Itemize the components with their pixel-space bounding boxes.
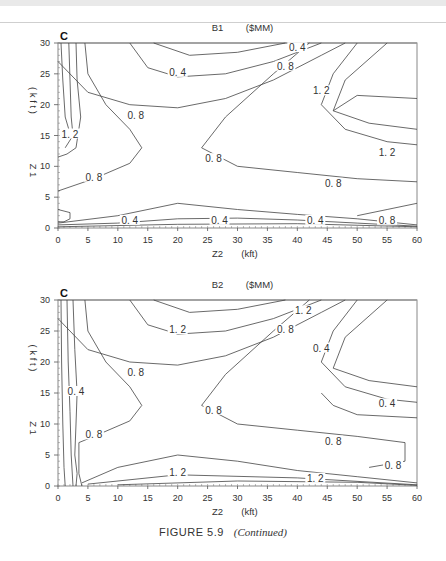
chart-title: B2 [212,279,224,290]
contour-line [333,300,417,387]
chart-units: ($MM) [246,22,273,33]
y-tick-label: 20 [40,357,50,367]
y-tick-label: 15 [40,131,50,141]
x-tick-label: 50 [352,493,362,503]
figure-caption-label: FIGURE 5.9 [159,526,224,538]
contour-line [321,300,417,402]
panel-letter: C [60,287,68,299]
contour-label: 0. 4 [211,215,228,226]
y-tick-label: 0 [45,223,50,233]
y-tick-label: 25 [40,326,50,336]
contour-label: 0. 4 [307,215,324,226]
contour-label: 0. 8 [379,215,396,226]
contour-label: 0. 8 [205,405,222,416]
contour-line [321,393,417,418]
contour-line [202,43,417,182]
y-tick-label: 25 [40,69,50,79]
figure-caption: FIGURE 5.9(Continued) [0,526,446,538]
x-tick-label: 55 [382,493,392,503]
contour-label: 0. 8 [325,436,342,447]
contour-label: 0. 4 [289,42,306,53]
chart-units: ($MM) [246,279,273,290]
contour-label: 0. 8 [205,153,222,164]
contour-label: 0. 8 [385,460,402,471]
y-tick-label: 5 [45,450,50,460]
contour-line [61,43,69,129]
x-tick-label: 55 [382,235,392,245]
x-tick-label: 45 [322,493,332,503]
x-tick-label: 25 [203,493,213,503]
x-tick-label: 10 [113,493,123,503]
contour-line [154,43,286,55]
y-tick-label: 15 [40,388,50,398]
x-axis-label: Z2 [212,506,223,517]
y-axis-units: ( k f t ) [28,87,39,114]
y-tick-label: 10 [40,161,50,171]
contour-line [321,43,417,145]
x-tick-label: 60 [412,235,422,245]
contour-label: 0. 8 [127,367,144,378]
y-tick-label: 0 [45,481,50,491]
x-tick-label: 5 [85,493,90,503]
contour-label: 0. 4 [313,343,330,354]
y-tick-label: 10 [40,419,50,429]
contour-label: 0. 8 [86,429,103,440]
x-tick-label: 5 [85,235,90,245]
y-tick-label: 5 [45,192,50,202]
x-tick-label: 40 [292,493,302,503]
contour-line [154,300,286,312]
contour-label: 0. 8 [277,61,294,72]
contour-label: 1. 2 [169,467,186,478]
contour-line [82,455,417,483]
contour-plot-b1: B1($MM)C05101520253005101520253035404550… [28,22,422,259]
figure-canvas: B1($MM)C05101520253005101520253035404550… [0,0,446,561]
x-tick-label: 30 [232,493,242,503]
contour-label: 1. 2 [169,324,186,335]
x-tick-label: 20 [173,235,183,245]
x-tick-label: 35 [262,235,272,245]
contour-plot-b2: B2($MM)C05101520253005101520253035404550… [28,279,422,517]
contour-line [333,43,417,129]
x-tick-label: 40 [292,235,302,245]
contour-line [79,300,142,486]
contour-line [61,300,65,486]
panel-letter: C [60,30,68,42]
contour-label: 1. 2 [307,473,324,484]
figure-caption-note: (Continued) [234,526,287,538]
contour-line [202,300,405,467]
contour-label: 0. 4 [121,215,138,226]
x-axis-units: (kft) [241,506,257,517]
x-tick-label: 0 [55,235,60,245]
y-axis-units: ( k f t ) [28,345,39,372]
x-tick-label: 15 [143,493,153,503]
x-tick-label: 20 [173,493,183,503]
x-tick-label: 0 [55,493,60,503]
y-tick-label: 20 [40,100,50,110]
contour-label: 0. 8 [277,324,294,335]
x-tick-label: 45 [322,235,332,245]
contour-line [88,475,417,485]
contour-label: 0. 4 [68,386,85,397]
contour-label: 1. 2 [313,85,330,96]
contour-line [357,203,417,215]
x-axis-label: Z2 [212,248,223,259]
contour-label: 0. 8 [127,110,144,121]
contour-label: 1. 2 [295,305,312,316]
y-axis-label: Z 1 [28,164,39,178]
y-tick-label: 30 [40,38,50,48]
y-axis-label: Z 1 [28,421,39,435]
x-axis-units: (kft) [241,248,257,259]
contour-label: 0. 4 [169,67,186,78]
y-tick-label: 30 [40,295,50,305]
x-tick-label: 50 [352,235,362,245]
contour-label: 0. 8 [86,172,103,183]
chart-title: B1 [212,22,224,33]
x-tick-label: 30 [232,235,242,245]
contour-line [333,95,417,110]
x-tick-label: 60 [412,493,422,503]
contour-label: 1. 2 [62,129,79,140]
contour-label: 0. 4 [379,398,396,409]
contour-label: 1. 2 [379,147,396,158]
contour-label: 0. 8 [325,178,342,189]
x-tick-label: 15 [143,235,153,245]
